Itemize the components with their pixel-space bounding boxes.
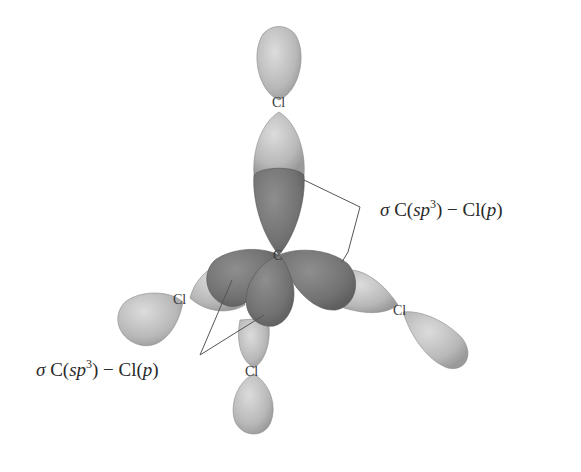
atom-label-cl-bottom: Cl xyxy=(245,365,258,379)
cl-right-outer-lobe xyxy=(403,312,468,369)
ccl4-orbital-diagram: Cl C Cl Cl Cl σ C(sp3) − Cl(p) σ C(sp3) … xyxy=(0,0,581,472)
cl-bottom-outer-lobe xyxy=(233,374,273,434)
bond-label-lower-left: σ C(sp3) − Cl(p) xyxy=(36,360,159,379)
atom-label-cl-top: Cl xyxy=(272,96,285,110)
cl-top-outer-lobe xyxy=(257,27,301,101)
orbital-drawing xyxy=(0,0,581,472)
bond-label-upper-right: σ C(sp3) − Cl(p) xyxy=(380,200,503,219)
atom-label-cl-right: Cl xyxy=(393,304,406,318)
cl-top-inner-lobe xyxy=(254,112,305,175)
atom-label-c-center: C xyxy=(273,249,282,263)
c-sp3-lobe-up xyxy=(254,168,305,255)
leader-line-upper xyxy=(304,180,360,262)
atom-label-cl-left: Cl xyxy=(173,293,186,307)
